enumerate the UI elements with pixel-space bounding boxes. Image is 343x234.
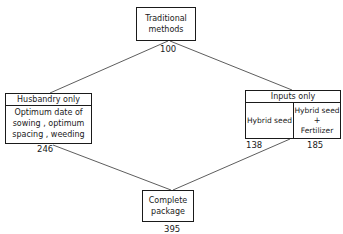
node-header: Husbandry only [6, 94, 91, 106]
value-traditional: 100 [160, 44, 176, 54]
cell-hybrid-seed-fertilizer: Hybrid seed + Fertilizer [294, 103, 340, 138]
edge-traditional-inputs [170, 41, 292, 90]
value-hybrid-seed-fertilizer: 185 [307, 140, 323, 150]
node-body-line2: sowing , optimum [6, 118, 91, 129]
edge-inputs-complete [173, 139, 290, 190]
node-traditional-methods: Traditional methods [136, 7, 196, 41]
node-body-line3: spacing , weeding [6, 129, 91, 140]
node-header: Inputs only [246, 91, 340, 103]
node-body-line1: Optimum date of [6, 107, 91, 118]
node-label-line1: Complete [149, 195, 188, 206]
node-complete-package: Complete package [142, 190, 194, 222]
cell-hybrid-seed: Hybrid seed [246, 103, 294, 138]
edge-traditional-husbandry [50, 41, 168, 93]
node-husbandry-only: Husbandry only Optimum date of sowing , … [5, 93, 92, 144]
node-label-line1: Traditional [145, 13, 187, 24]
node-inputs-only: Inputs only Hybrid seed Hybrid seed + Fe… [245, 90, 341, 139]
cell-label-line2: Fertilizer [301, 126, 333, 136]
edge-husbandry-complete [53, 145, 171, 190]
node-label-line2: package [151, 206, 185, 217]
cell-plus: + [314, 116, 321, 126]
cell-label: Hybrid seed [247, 115, 292, 126]
node-label-line2: methods [148, 24, 183, 35]
value-husbandry: 246 [37, 144, 53, 154]
value-complete: 395 [164, 224, 180, 234]
cell-label-line1: Hybrid seed [294, 106, 339, 116]
value-hybrid-seed: 138 [246, 140, 262, 150]
